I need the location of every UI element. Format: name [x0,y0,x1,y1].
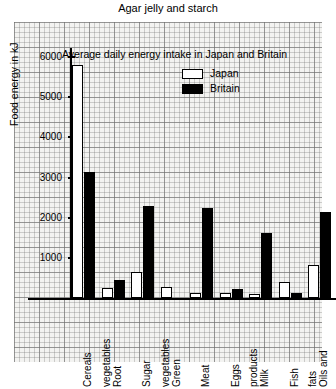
x-category-label: vegetables [161,339,172,387]
bar-japan [249,294,260,298]
bar-japan [190,293,201,298]
bar-britain [143,206,154,298]
y-axis-ticks: 100020003000400050006000 [38,22,70,273]
x-category-label: Milk [260,369,271,387]
x-category-label: Green [172,359,183,387]
x-axis-line [28,298,336,300]
y-tick-label: 5000 [40,92,62,102]
x-category-label: vegetables [102,339,113,387]
bar-japan [131,272,142,298]
bar-group [306,49,336,298]
y-tick-label: 4000 [40,132,62,142]
bar-britain [84,172,95,299]
legend-label-britain: Britain [210,82,240,95]
y-axis-title: Food energy in kJ [8,43,20,126]
y-tick-label: 2000 [40,213,62,223]
legend-label-japan: Japan [210,67,239,80]
y-tick-label: 3000 [40,173,62,183]
bar-britain [320,212,331,298]
y-tick-label: 1000 [40,253,62,263]
x-category-label: Sugar [142,360,153,387]
bar-japan [161,287,172,298]
bar-group [129,49,159,298]
bar-group [100,49,130,298]
bar-britain [202,208,213,298]
bar-japan [220,293,231,298]
y-tick-label: 6000 [40,52,62,62]
x-category-label: Fish [290,368,301,387]
bar-britain [261,233,272,298]
legend-swatch-britain-icon [182,84,203,94]
x-category-label: Cereals [83,353,94,387]
bar-britain [232,289,243,298]
bar-japan [102,288,113,298]
x-category-label: products [249,349,260,387]
graph-paper-panel: Average daily energy intake in Japan and… [14,22,322,362]
legend-item-britain: Britain [182,82,240,95]
legend-swatch-japan-icon [182,69,203,79]
legend: Japan Britain [182,67,240,97]
bar-group [70,49,100,298]
x-category-label: fats [308,371,319,387]
bar-japan [308,265,319,298]
bar-group [277,49,307,298]
x-axis-category-labels: CerealsRootvegetablesSugarGreenvegetable… [70,302,336,389]
x-category-label: Eggs [231,364,242,387]
bar-japan [279,282,290,298]
x-category-label: Meat [201,365,212,387]
bar-japan [72,65,83,298]
x-category-label: Oils and [319,350,330,387]
x-category-label: Root [113,366,124,387]
bar-britain [114,280,125,298]
legend-item-japan: Japan [182,67,240,80]
page-caption: Agar jelly and starch [0,2,336,14]
bar-group [247,49,277,298]
bar-britain [291,293,302,298]
